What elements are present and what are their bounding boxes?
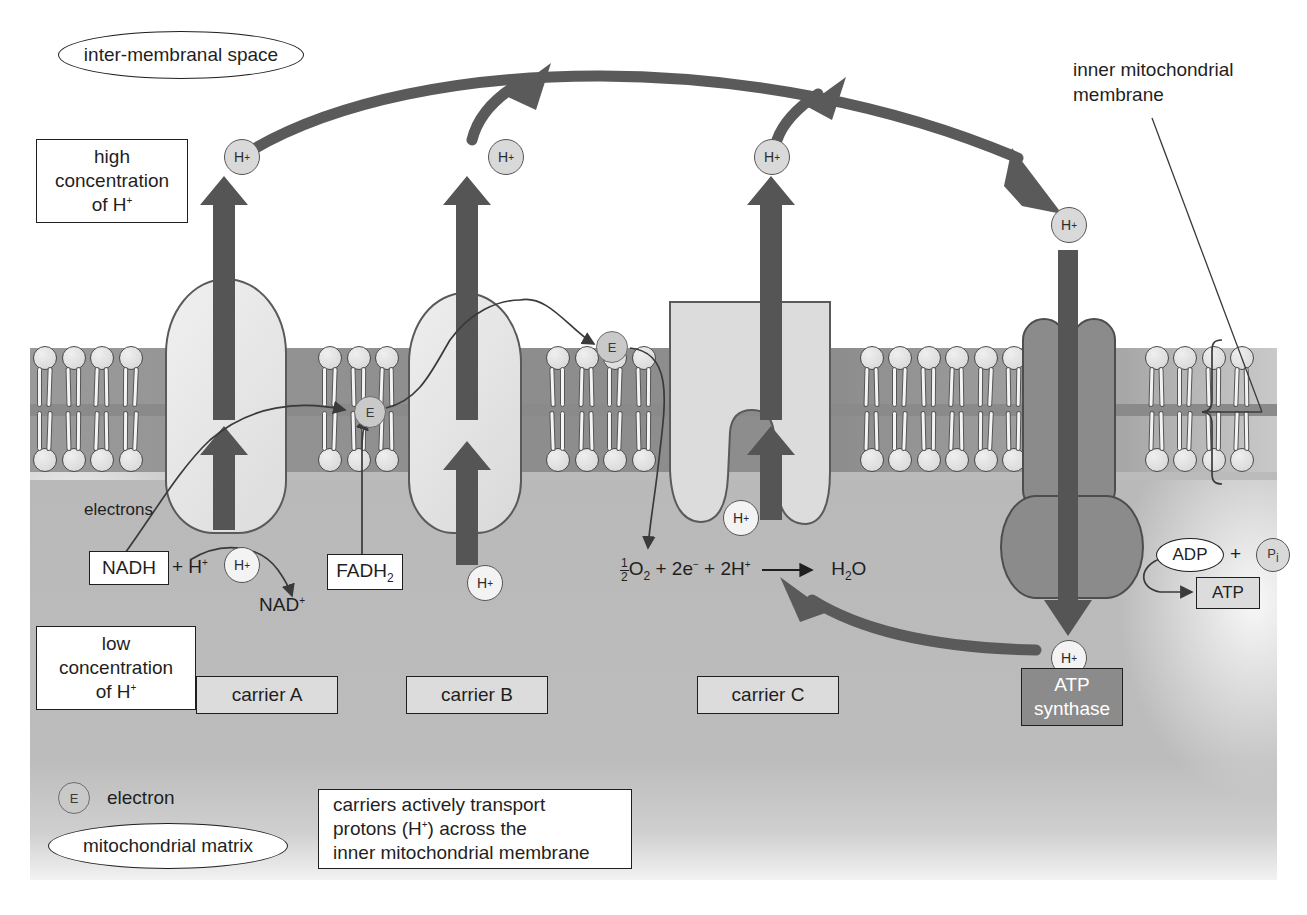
phospholipid xyxy=(317,410,343,472)
phospholipid-tail xyxy=(75,367,80,407)
phospholipid-tail xyxy=(1233,367,1239,407)
phospholipid-head xyxy=(974,346,998,370)
phospholipid-head xyxy=(119,346,143,370)
phospholipid-head xyxy=(603,448,627,472)
branch-arrow-c xyxy=(777,94,818,140)
proton-circle-a-matrix: H+ xyxy=(224,547,260,583)
phospholipid-head xyxy=(1230,346,1254,370)
phospholipid-tail xyxy=(1158,367,1164,407)
pi-text: Pi xyxy=(1267,546,1278,565)
phospholipid-tail xyxy=(607,367,612,407)
fadh2-text: FADH2 xyxy=(336,559,393,586)
phospholipid-tail xyxy=(322,411,327,451)
phospholipid-tail xyxy=(920,367,926,407)
proton-letter: H xyxy=(1061,217,1071,233)
electron-circle-a-b: E xyxy=(354,396,386,428)
proton-circle-b: H+ xyxy=(488,139,524,175)
phospholipid xyxy=(973,410,999,472)
phospholipid-tail xyxy=(1233,411,1239,451)
phospholipid-tail xyxy=(46,411,52,451)
high-concentration-label: high concentration of H+ xyxy=(36,139,188,223)
phospholipid xyxy=(887,410,913,472)
adp-pi-plus-sign: + xyxy=(1230,543,1241,565)
phospholipid xyxy=(631,346,657,408)
atp-synthase-label: ATP synthase xyxy=(1021,668,1123,726)
phospholipid-tail xyxy=(1244,411,1250,451)
phospholipid xyxy=(89,410,115,472)
phospholipid-head xyxy=(546,448,570,472)
phospholipid-tail xyxy=(1186,411,1192,451)
carrier-b-protein[interactable] xyxy=(408,292,522,534)
phospholipid-tail xyxy=(122,367,127,407)
phospholipid xyxy=(944,346,970,408)
high-conc-line2: concentration xyxy=(55,169,169,193)
phospholipid xyxy=(118,346,144,408)
low-conc-line3: of H+ xyxy=(96,680,137,704)
phospholipid-tail xyxy=(331,367,337,407)
proton-circle-c-matrix: H+ xyxy=(723,500,759,536)
proton-charge: + xyxy=(508,152,514,163)
phospholipid-tail xyxy=(1158,411,1164,451)
phospholipid-head xyxy=(119,448,143,472)
phospholipid-tail xyxy=(588,411,594,451)
atp-synthase-pillar-left[interactable] xyxy=(1022,318,1066,512)
phospholipid-tail xyxy=(1215,411,1220,451)
phospholipid-tail xyxy=(948,367,954,407)
proton-circle-a: H+ xyxy=(224,139,260,175)
fadh2-box: FADH2 xyxy=(327,554,403,590)
phospholipid-head xyxy=(1202,448,1226,472)
phospholipid-tail xyxy=(1205,411,1211,451)
atp-synthase-head-right[interactable] xyxy=(1068,495,1144,599)
phospholipid-tail xyxy=(65,367,71,407)
phospholipid xyxy=(317,346,343,408)
phospholipid-tail xyxy=(549,367,555,407)
phospholipid-tail xyxy=(873,367,879,407)
phospholipid xyxy=(118,410,144,472)
reaction-2e: + 2e xyxy=(655,558,693,579)
caption-box: carriers actively transport protons (H+)… xyxy=(318,789,632,869)
phospholipid-tail xyxy=(1016,411,1022,451)
phospholipid-tail xyxy=(1177,411,1182,451)
proton-letter: H xyxy=(764,149,774,165)
phospholipid-tail xyxy=(104,411,110,451)
phospholipid-head xyxy=(90,346,114,370)
phospholipid-tail xyxy=(93,367,99,407)
atp-synthase-head-left[interactable] xyxy=(1000,495,1072,599)
nadh-box: NADH xyxy=(89,551,169,585)
inorganic-phosphate-label: Pi xyxy=(1256,538,1290,572)
phospholipid xyxy=(859,346,885,408)
diagram-canvas: H+ H+ H+ H+ H+ H+ H+ H+ E E inter-membra… xyxy=(0,0,1307,915)
branch-arrow-b xyxy=(472,83,520,140)
phospholipid-head xyxy=(860,448,884,472)
phospholipid-tail xyxy=(350,367,356,407)
phospholipid-head xyxy=(575,448,599,472)
legend-electron-label: electron xyxy=(107,787,175,809)
atp-synthase-line1: ATP xyxy=(1054,673,1090,697)
phospholipid xyxy=(1201,346,1227,408)
phospholipid xyxy=(916,346,942,408)
phospholipid-tail xyxy=(1244,367,1250,407)
phospholipid xyxy=(1144,346,1170,408)
atp-synthase-line2: synthase xyxy=(1034,697,1110,721)
carrier-a-protein[interactable] xyxy=(165,278,287,534)
atp-synthase-pillar-right[interactable] xyxy=(1072,318,1116,512)
caption-line3: inner mitochondrial membrane xyxy=(333,841,590,865)
phospholipid-tail xyxy=(959,367,965,407)
phospholipid xyxy=(1172,346,1198,408)
phospholipid xyxy=(1229,346,1255,408)
phospholipid-tail xyxy=(1006,411,1012,451)
phospholipid-tail xyxy=(920,411,926,451)
inter-membranal-space-label: inter-membranal space xyxy=(58,31,304,79)
phospholipid-head xyxy=(33,346,57,370)
reaction-water: H xyxy=(831,558,845,579)
phospholipid-tail xyxy=(863,367,869,407)
high-conc-line3: of H+ xyxy=(92,193,133,217)
phospholipid-tail xyxy=(892,411,897,451)
phospholipid-head xyxy=(888,346,912,370)
reaction-frac-den: 2 xyxy=(620,571,629,584)
caption-line2: protons (H+) across the xyxy=(333,817,527,841)
inter-membranal-space-text: inter-membranal space xyxy=(84,44,278,66)
nad-plus-label: NAD+ xyxy=(259,594,305,616)
inner-membrane-callout: inner mitochondrial membrane xyxy=(1073,58,1234,107)
phospholipid-head xyxy=(1202,346,1226,370)
